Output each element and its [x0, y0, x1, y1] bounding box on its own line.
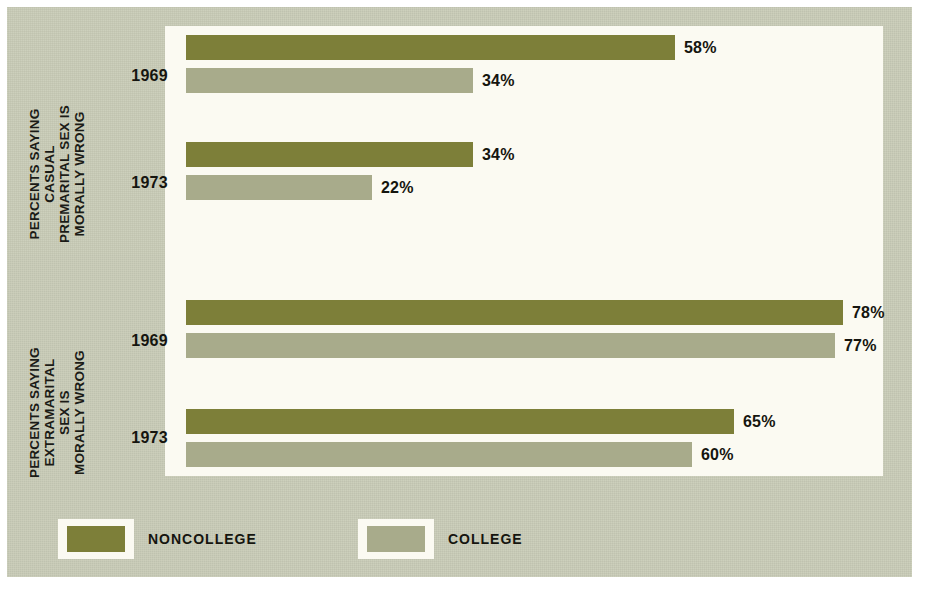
legend-label-noncollege: NONCOLLEGE	[148, 531, 257, 547]
legend-label-college: COLLEGE	[448, 531, 523, 547]
bar-g2-1973-noncollege	[186, 409, 734, 434]
bar-g1-1969-noncollege	[186, 35, 675, 60]
bar-g1-1973-noncollege	[186, 142, 473, 167]
value-label-g2-1969-college: 77%	[844, 333, 877, 358]
chart-figure: PERCENTS SAYING CASUAL PREMARITAL SEX IS…	[0, 0, 932, 603]
value-label-g1-1973-college: 22%	[381, 175, 414, 200]
group-caption-premarital: PERCENTS SAYING CASUAL PREMARITAL SEX IS…	[27, 105, 87, 243]
value-label-g1-1973-noncollege: 34%	[482, 142, 515, 167]
legend-swatch-college	[367, 526, 425, 552]
bar-g2-1969-college	[186, 333, 835, 358]
value-label-g2-1969-noncollege: 78%	[852, 300, 885, 325]
value-label-g1-1969-noncollege: 58%	[684, 35, 717, 60]
bar-g1-1973-college	[186, 175, 372, 200]
legend-swatch-noncollege	[67, 526, 125, 552]
year-label-g1-1973: 1973	[108, 174, 168, 192]
bar-g1-1969-college	[186, 68, 473, 93]
group-caption-extramarital: PERCENTS SAYING EXTRAMARITAL SEX IS MORA…	[27, 347, 87, 478]
year-label-g2-1973: 1973	[108, 429, 168, 447]
value-label-g1-1969-college: 34%	[482, 68, 515, 93]
bar-g2-1969-noncollege	[186, 300, 843, 325]
legend-frame-noncollege	[58, 519, 134, 559]
year-label-g1-1969: 1969	[108, 67, 168, 85]
value-label-g2-1973-college: 60%	[701, 442, 734, 467]
year-label-g2-1969: 1969	[108, 332, 168, 350]
value-label-g2-1973-noncollege: 65%	[743, 409, 776, 434]
legend-frame-college	[358, 519, 434, 559]
bar-g2-1973-college	[186, 442, 692, 467]
